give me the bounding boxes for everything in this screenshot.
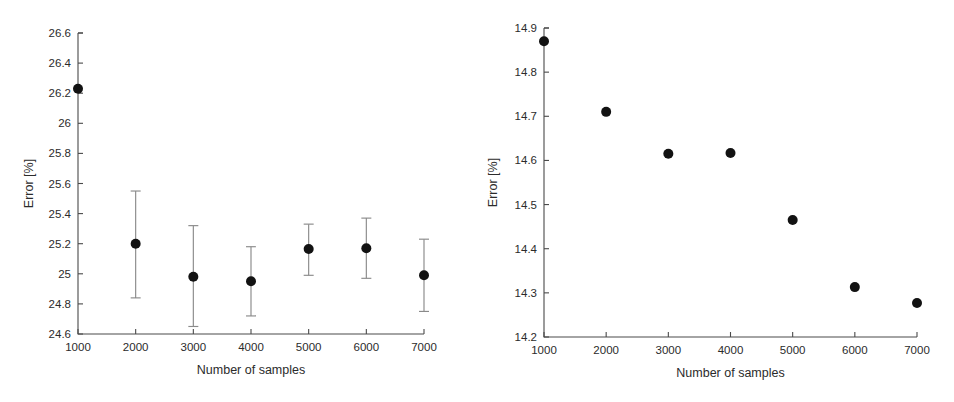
data-point-marker xyxy=(73,84,83,94)
data-point-marker xyxy=(188,272,198,282)
y-tick-label: 14.2 xyxy=(515,331,537,343)
x-tick-label: 5000 xyxy=(780,344,806,356)
figure-container: 24.624.82525.225.425.625.82626.226.426.6… xyxy=(0,0,954,402)
y-tick-label: 26.2 xyxy=(49,87,71,99)
y-tick-label: 24.8 xyxy=(49,298,71,310)
right-chart-svg: 14.214.314.414.514.614.714.814.910002000… xyxy=(477,0,954,402)
x-tick-label: 4000 xyxy=(718,344,744,356)
y-tick-label: 26 xyxy=(58,117,71,129)
y-tick-label: 24.6 xyxy=(49,328,71,340)
data-point-marker xyxy=(912,298,922,308)
x-tick-label: 1000 xyxy=(65,341,91,353)
x-tick-label: 5000 xyxy=(296,341,322,353)
data-point-marker xyxy=(601,107,611,117)
y-tick-label: 26.6 xyxy=(49,27,71,39)
x-tick-label: 2000 xyxy=(123,341,149,353)
y-tick-label: 14.9 xyxy=(515,22,537,34)
x-tick-label: 7000 xyxy=(411,341,437,353)
data-point-marker xyxy=(663,149,673,159)
data-point-marker xyxy=(850,282,860,292)
data-point-marker xyxy=(539,36,549,46)
data-point-marker xyxy=(361,243,371,253)
x-axis-title: Number of samples xyxy=(197,363,305,377)
y-tick-label: 25.8 xyxy=(49,147,71,159)
y-tick-label: 25.2 xyxy=(49,238,71,250)
y-axis-title: Error [%] xyxy=(22,159,36,208)
y-tick-label: 14.8 xyxy=(515,66,537,78)
y-tick-label: 25 xyxy=(58,268,71,280)
x-tick-label: 2000 xyxy=(593,344,619,356)
data-point-marker xyxy=(131,239,141,249)
data-point-marker xyxy=(419,270,429,280)
x-tick-label: 3000 xyxy=(656,344,682,356)
data-point-marker xyxy=(726,148,736,158)
data-point-marker xyxy=(788,215,798,225)
y-tick-label: 25.4 xyxy=(49,208,72,220)
y-tick-label: 14.4 xyxy=(515,243,538,255)
left-chart-panel: 24.624.82525.225.425.625.82626.226.426.6… xyxy=(0,0,477,402)
y-tick-label: 26.4 xyxy=(49,57,72,69)
data-point-marker xyxy=(246,276,256,286)
x-tick-label: 3000 xyxy=(181,341,207,353)
plot-axes xyxy=(544,28,917,337)
right-chart-panel: 14.214.314.414.514.614.714.814.910002000… xyxy=(477,0,954,402)
y-tick-label: 14.7 xyxy=(515,110,537,122)
left-chart-svg: 24.624.82525.225.425.625.82626.226.426.6… xyxy=(0,0,477,402)
x-tick-label: 7000 xyxy=(904,344,930,356)
x-tick-label: 6000 xyxy=(354,341,380,353)
y-tick-label: 14.3 xyxy=(515,287,537,299)
y-tick-label: 25.6 xyxy=(49,178,71,190)
y-tick-label: 14.6 xyxy=(515,154,537,166)
x-tick-label: 4000 xyxy=(238,341,264,353)
x-tick-label: 6000 xyxy=(842,344,868,356)
y-tick-label: 14.5 xyxy=(515,199,537,211)
x-axis-title: Number of samples xyxy=(676,366,784,380)
data-point-marker xyxy=(304,244,314,254)
x-tick-label: 1000 xyxy=(531,344,557,356)
y-axis-title: Error [%] xyxy=(486,158,500,207)
